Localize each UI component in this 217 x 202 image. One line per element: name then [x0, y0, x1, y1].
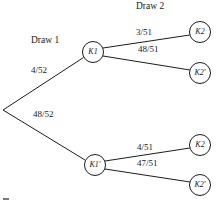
edge-k1prime-to-k2prime	[105, 169, 190, 182]
stage-label-draw-2: Draw 2	[136, 2, 164, 12]
node-label-k1: K1	[83, 48, 103, 56]
node-label-k2prime-top: K2'	[190, 69, 210, 77]
edge-k1-to-k2prime	[103, 56, 190, 70]
edge-label-root-to-k1: 4/52	[31, 66, 47, 75]
edge-label-k1prime-to-k2: 4/51	[137, 143, 153, 152]
node-label-k1prime: K1'	[85, 161, 105, 169]
node-label-k2-top: K2	[190, 28, 210, 36]
node-label-k2-bottom: K2	[190, 141, 210, 149]
edge-label-k1-to-k2prime: 48/51	[138, 45, 159, 54]
probability-tree-diagram: Draw 1 Draw 2 K1 K1' K2 K2' K2 K2' 4/52 …	[0, 0, 217, 202]
node-label-k2prime-bottom: K2'	[190, 181, 210, 189]
edge-label-k1prime-to-k2prime: 47/51	[137, 159, 158, 168]
tree-graph-canvas	[0, 0, 217, 202]
stage-label-draw-1: Draw 1	[31, 36, 59, 46]
edge-label-root-to-k1prime: 48/52	[33, 110, 54, 119]
page-corner-mark	[3, 198, 9, 200]
edge-label-k1-to-k2: 3/51	[136, 28, 152, 37]
